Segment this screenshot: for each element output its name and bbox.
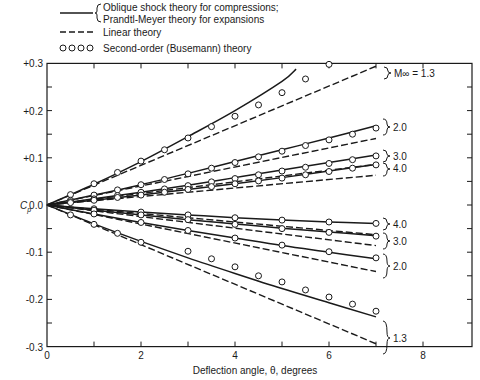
busemann-point bbox=[68, 212, 74, 218]
busemann-point bbox=[326, 229, 332, 235]
busemann-point bbox=[279, 226, 285, 232]
busemann-point bbox=[350, 165, 356, 171]
busemann-point bbox=[185, 217, 191, 223]
busemann-point bbox=[256, 273, 262, 279]
y-tick-label: -0.2 bbox=[26, 294, 44, 305]
legend-solid-label-1: Oblique shock theory for compressions; bbox=[103, 2, 279, 13]
busemann-point bbox=[326, 168, 332, 174]
mach-label-4-0-upper: 4.0 bbox=[393, 163, 407, 174]
mach-label-1-3-lower: 1.3 bbox=[393, 333, 407, 344]
busemann-point bbox=[115, 169, 121, 175]
busemann-point bbox=[326, 294, 332, 300]
busemann-point bbox=[303, 287, 309, 293]
busemann-point bbox=[326, 160, 332, 166]
mach-label-3-0-lower: 3.0 bbox=[393, 236, 407, 247]
busemann-point bbox=[162, 189, 168, 195]
busemann-point bbox=[209, 256, 215, 262]
busemann-point bbox=[91, 197, 97, 203]
busemann-point bbox=[279, 242, 285, 248]
busemann-point bbox=[91, 221, 97, 227]
x-tick-label: 0 bbox=[44, 350, 50, 361]
cp-vs-deflection-chart: Oblique shock theory for compressions; P… bbox=[0, 0, 480, 380]
busemann-point bbox=[68, 192, 74, 198]
busemann-point bbox=[303, 172, 309, 178]
busemann-point bbox=[232, 181, 238, 187]
busemann-point bbox=[232, 215, 238, 221]
plot-series bbox=[47, 61, 379, 343]
busemann-point bbox=[373, 255, 379, 261]
busemann-point bbox=[326, 219, 332, 225]
busemann-point bbox=[185, 248, 191, 254]
busemann-point bbox=[303, 76, 309, 82]
mach-label-1-3-top: M∞ = 1.3 bbox=[394, 68, 435, 79]
busemann-point bbox=[373, 153, 379, 159]
mach-label-2-0: 2.0 bbox=[393, 122, 407, 133]
legend-circles-label: Second-order (Busemann) theory bbox=[103, 43, 251, 54]
x-tick-label: 4 bbox=[232, 350, 238, 361]
busemann-point bbox=[279, 175, 285, 181]
busemann-point bbox=[185, 186, 191, 192]
busemann-point bbox=[279, 148, 285, 154]
y-tick-label: -0.3 bbox=[26, 342, 44, 353]
mach-labels: M∞ = 1.3 2.0 3.0 4.0 4.0 3.0 2.0 1.3 bbox=[383, 67, 435, 354]
x-tick-labels: 02468 bbox=[44, 350, 426, 361]
busemann-point bbox=[232, 113, 238, 119]
mach-label-3-0: 3.0 bbox=[393, 151, 407, 162]
busemann-point bbox=[115, 187, 121, 193]
busemann-point bbox=[232, 264, 238, 270]
legend: Oblique shock theory for compressions; P… bbox=[60, 2, 279, 54]
busemann-point bbox=[115, 194, 121, 200]
y-tick-label: 0.0 bbox=[29, 200, 43, 211]
busemann-point bbox=[162, 147, 168, 153]
busemann-point bbox=[373, 220, 379, 226]
busemann-point bbox=[185, 171, 191, 177]
busemann-point bbox=[138, 239, 144, 245]
mach-label-2-0-lower: 2.0 bbox=[393, 261, 407, 272]
busemann-point bbox=[209, 184, 215, 190]
busemann-point bbox=[162, 177, 168, 183]
busemann-point bbox=[68, 200, 74, 206]
busemann-point bbox=[209, 165, 215, 171]
busemann-point bbox=[232, 221, 238, 227]
busemann-point bbox=[350, 157, 356, 163]
busemann-point bbox=[303, 164, 309, 170]
busemann-point bbox=[138, 219, 144, 225]
x-tick-label: 2 bbox=[138, 350, 144, 361]
legend-dashed-label: Linear theory bbox=[103, 27, 161, 38]
busemann-point bbox=[138, 182, 144, 188]
y-tick-label: +0.2 bbox=[23, 106, 43, 117]
busemann-point bbox=[373, 162, 379, 168]
busemann-point bbox=[138, 192, 144, 198]
busemann-point bbox=[256, 172, 262, 178]
busemann-point bbox=[326, 249, 332, 255]
y-tick-label: +0.3 bbox=[23, 58, 43, 69]
mach-label-4-0-lower: 4.0 bbox=[393, 219, 407, 230]
busemann-point bbox=[91, 211, 97, 217]
busemann-point bbox=[256, 102, 262, 108]
busemann-point bbox=[232, 235, 238, 241]
legend-circles bbox=[60, 45, 93, 51]
busemann-point bbox=[256, 154, 262, 160]
busemann-point bbox=[209, 124, 215, 130]
busemann-point bbox=[350, 301, 356, 307]
busemann-point bbox=[256, 178, 262, 184]
busemann-point bbox=[326, 61, 332, 67]
busemann-point bbox=[185, 227, 191, 233]
busemann-point bbox=[232, 160, 238, 166]
busemann-point bbox=[279, 168, 285, 174]
busemann-point bbox=[303, 143, 309, 149]
legend-solid-label-2: Prandtl-Meyer theory for expansions bbox=[103, 14, 264, 25]
busemann-point bbox=[91, 181, 97, 187]
exact-theory-curve bbox=[47, 69, 296, 205]
x-tick-label: 8 bbox=[420, 350, 426, 361]
y-tick-label: +0.1 bbox=[23, 153, 43, 164]
busemann-point bbox=[185, 135, 191, 141]
busemann-point bbox=[115, 230, 121, 236]
busemann-point bbox=[326, 137, 332, 143]
busemann-point bbox=[138, 212, 144, 218]
busemann-point bbox=[279, 217, 285, 223]
x-axis-label: Deflection angle, θ, degrees bbox=[193, 365, 318, 376]
busemann-point bbox=[279, 279, 285, 285]
y-tick-label: -0.1 bbox=[26, 247, 44, 258]
x-tick-label: 6 bbox=[326, 350, 332, 361]
